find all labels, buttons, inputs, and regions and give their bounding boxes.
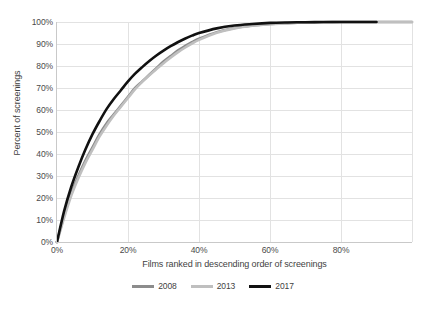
x-tick-label: 40% [179,245,219,255]
legend-swatch-icon [191,285,213,288]
y-tick-label: 100% [1,18,53,27]
legend-label: 2017 [275,281,294,291]
legend-label: 2008 [158,281,177,291]
legend-swatch-icon [132,285,154,288]
y-axis-line [56,22,57,243]
legend-item-2008[interactable]: 2008 [132,281,177,291]
y-tick-label: 40% [1,150,53,159]
line-series-2017 [57,22,377,242]
x-tick-label: 20% [108,245,148,255]
y-tick-label: 30% [1,172,53,181]
x-tick-label: 0% [37,245,77,255]
x-tick-label: 80% [321,245,361,255]
gridline-vertical [412,22,413,242]
y-axis-ticks: 100% 90% 80% 70% 60% 50% 40% 30% 20% 10%… [0,0,53,311]
y-tick-label: 50% [1,128,53,137]
chart-legend: 2008 2013 2017 [0,281,426,291]
y-tick-label: 60% [1,106,53,115]
x-tick-label: 60% [250,245,290,255]
legend-label: 2013 [217,281,236,291]
y-tick-label: 70% [1,84,53,93]
x-axis-title: Films ranked in descending order of scre… [57,259,412,269]
y-tick-label: 20% [1,194,53,203]
line-series-2013 [57,22,412,242]
y-tick-label: 80% [1,62,53,71]
plot-area [57,22,412,242]
x-axis-line [56,242,412,243]
y-tick-label: 10% [1,216,53,225]
legend-item-2013[interactable]: 2013 [191,281,236,291]
series-lines [57,22,412,242]
y-tick-label: 90% [1,40,53,49]
legend-swatch-icon [249,285,271,288]
chart-container: 100% 90% 80% 70% 60% 50% 40% 30% 20% 10%… [0,0,426,311]
line-series-2008 [57,22,412,242]
legend-item-2017[interactable]: 2017 [249,281,294,291]
y-axis-title: Percent of screenings [12,43,22,183]
